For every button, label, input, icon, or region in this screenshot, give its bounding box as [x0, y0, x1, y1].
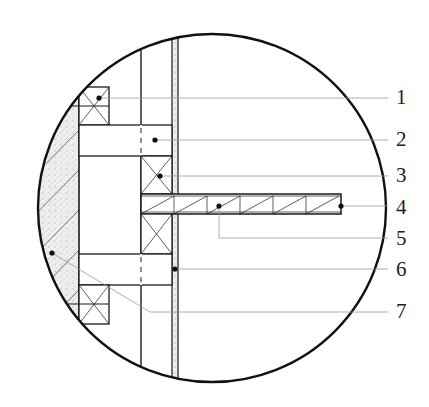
shelf-board	[141, 194, 341, 214]
lower-stud-block	[141, 214, 172, 254]
callout-label-4: 4	[396, 197, 407, 218]
callout-label-2: 2	[396, 129, 407, 150]
masonry-wall	[20, 30, 79, 390]
detail-drawing	[0, 0, 429, 407]
callout-label-7: 7	[396, 301, 407, 322]
callout-label-1: 1	[396, 87, 407, 108]
callout-label-5: 5	[396, 228, 407, 249]
callout-label-6: 6	[396, 259, 407, 280]
spacer-block	[79, 125, 172, 156]
callout-label-3: 3	[396, 165, 407, 186]
upper-stud-block	[141, 156, 172, 194]
lower-spacer-block	[79, 254, 172, 285]
